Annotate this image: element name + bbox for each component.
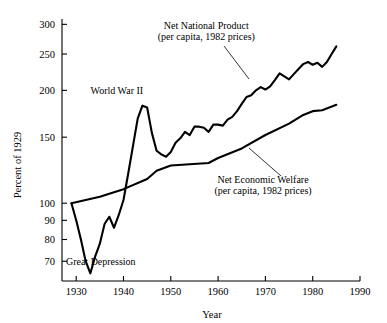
y-tick-label: 200 xyxy=(39,85,55,96)
x-axis-title: Year xyxy=(202,309,222,320)
y-tick-label: 80 xyxy=(45,234,56,245)
y-tick-label: 250 xyxy=(39,49,55,60)
annotation-nnp-label-line1: Net National Product xyxy=(164,20,249,31)
x-tick-label: 1980 xyxy=(302,286,323,297)
annotation-new-label-line2: (per capita, 1982 prices) xyxy=(214,185,311,197)
annotation-ww2: World War II xyxy=(91,85,144,96)
y-tick-label: 150 xyxy=(39,132,55,143)
line-chart-canvas: 708090100150200250300 193019401950196019… xyxy=(0,0,387,323)
y-tick-label: 90 xyxy=(45,215,56,226)
annotation-new-label-line1: Net Economic Welfare xyxy=(217,174,309,185)
chart-background xyxy=(0,0,387,323)
x-tick-label: 1930 xyxy=(66,286,87,297)
y-tick-label: 70 xyxy=(45,256,56,267)
annotation-great-depression: Great Depression xyxy=(66,256,136,267)
x-tick-label: 1990 xyxy=(350,286,371,297)
x-tick-label: 1970 xyxy=(255,286,276,297)
annotation-nnp-label-line2: (per capita, 1982 prices) xyxy=(158,31,255,43)
y-tick-label: 300 xyxy=(39,19,55,30)
x-tick-label: 1940 xyxy=(113,286,134,297)
y-axis-title: Percent of 1929 xyxy=(12,132,23,198)
y-tick-label: 100 xyxy=(39,198,55,209)
x-tick-label: 1960 xyxy=(208,286,229,297)
x-tick-label: 1950 xyxy=(160,286,181,297)
chart-figure: 708090100150200250300 193019401950196019… xyxy=(0,0,387,323)
